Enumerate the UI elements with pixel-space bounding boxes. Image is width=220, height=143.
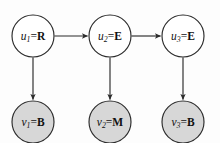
node-u3[interactable]: u3=E xyxy=(162,15,204,57)
figure-canvas: u1=R u2=E u3=E v1=B v2=M xyxy=(0,0,220,143)
node-v3[interactable]: v3=B xyxy=(162,101,204,143)
node-u2[interactable]: u2=E xyxy=(89,15,131,57)
node-u3-label: u3=E xyxy=(171,30,195,44)
node-u1-label: u1=R xyxy=(21,30,46,44)
node-u1[interactable]: u1=R xyxy=(12,15,54,57)
node-v2[interactable]: v2=M xyxy=(89,101,131,143)
node-u2-label: u2=E xyxy=(98,30,122,44)
graph-diagram: u1=R u2=E u3=E v1=B v2=M xyxy=(0,0,220,143)
node-v1-label: v1=B xyxy=(21,116,45,130)
node-v3-label: v3=B xyxy=(171,116,195,130)
node-v1[interactable]: v1=B xyxy=(12,101,54,143)
node-v2-label: v2=M xyxy=(97,116,124,130)
